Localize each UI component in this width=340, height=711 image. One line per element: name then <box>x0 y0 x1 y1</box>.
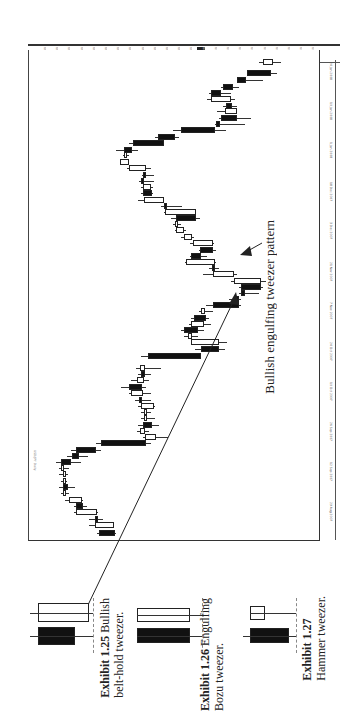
exhibit-candle-wick <box>243 636 296 637</box>
exhibit-baseline <box>93 598 94 653</box>
exhibit-candle-wick <box>30 613 93 614</box>
arrow-head-icon <box>240 246 252 256</box>
arrow-line-long <box>88 302 233 605</box>
exhibit-caption: Exhibit 1.25 Bullishbelt-hold tweezer. <box>98 598 126 698</box>
arrow-head-icon <box>229 292 239 305</box>
exhibit-candle-wick <box>250 613 296 614</box>
exhibit-caption: Exhibit 1.26 EngulfingBozu tweezer. <box>198 598 226 711</box>
exhibit-candle-wick <box>137 636 202 637</box>
exhibit-caption: Exhibit 1.27Hammer tweezer. <box>300 596 328 681</box>
exhibit-baseline <box>296 598 297 653</box>
exhibit-candle-wick <box>137 615 202 616</box>
exhibit-candle-wick <box>30 636 93 637</box>
